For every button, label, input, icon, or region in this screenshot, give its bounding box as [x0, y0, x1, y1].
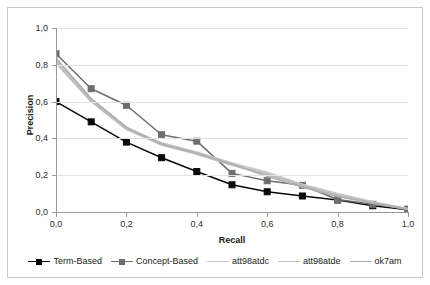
- legend-line: [278, 261, 300, 263]
- chart-legend: Term-BasedConcept-Basedatt98atdcatt98atd…: [7, 256, 423, 266]
- y-axis-line: [56, 28, 57, 213]
- legend-swatch-icon: [28, 257, 50, 266]
- series-layer: [56, 28, 408, 212]
- legend-swatch-icon: [278, 257, 300, 266]
- data-point: [299, 193, 305, 199]
- gridline: [56, 175, 408, 176]
- legend-item-concept-based[interactable]: Concept-Based: [111, 256, 198, 266]
- legend-label: ok7am: [375, 256, 402, 266]
- legend-swatch-icon: [207, 257, 229, 266]
- data-point: [194, 169, 200, 175]
- legend-swatch-icon: [350, 257, 372, 266]
- y-axis-title: Precision: [25, 75, 35, 155]
- precision-recall-chart: 0,00,20,40,60,81,00,00,20,40,60,81,0 Rec…: [0, 0, 430, 285]
- legend-line: [207, 261, 229, 263]
- legend-line: [350, 261, 372, 263]
- gridline: [56, 65, 408, 66]
- x-axis-title: Recall: [56, 235, 408, 245]
- legend-item-att98atde[interactable]: att98atde: [278, 256, 341, 266]
- gridline: [56, 138, 408, 139]
- data-point: [159, 155, 165, 161]
- series-line: [56, 102, 408, 210]
- legend-item-ok7am[interactable]: ok7am: [350, 256, 402, 266]
- legend-label: Concept-Based: [136, 256, 198, 266]
- data-point: [159, 132, 165, 138]
- data-point: [123, 102, 129, 108]
- data-point: [264, 178, 270, 184]
- legend-item-att98atdc[interactable]: att98atdc: [207, 256, 269, 266]
- gridline: [56, 28, 408, 29]
- data-point: [229, 182, 235, 188]
- x-axis-line: [56, 212, 409, 213]
- data-point: [264, 189, 270, 195]
- legend-marker-square: [36, 259, 42, 265]
- legend-swatch-icon: [111, 257, 133, 266]
- data-point: [88, 119, 94, 125]
- legend-item-term-based[interactable]: Term-Based: [28, 256, 102, 266]
- plot-area: [56, 28, 408, 212]
- legend-marker-square: [119, 259, 125, 265]
- gridline: [56, 102, 408, 103]
- legend-label: att98atde: [303, 256, 341, 266]
- data-point: [123, 139, 129, 145]
- legend-label: att98atdc: [232, 256, 269, 266]
- data-point: [88, 86, 94, 92]
- legend-label: Term-Based: [53, 256, 102, 266]
